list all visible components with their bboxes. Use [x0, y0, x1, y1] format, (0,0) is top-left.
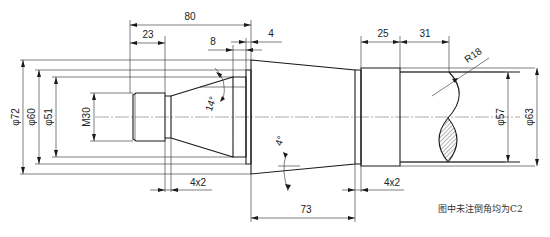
dim-phi60: φ60	[26, 108, 37, 126]
dim-73: 73	[300, 204, 312, 215]
dim-phi72: φ72	[10, 108, 21, 126]
dim-31: 31	[419, 28, 431, 39]
hatched-section	[439, 118, 457, 162]
groove-right-label: 4x2	[384, 177, 401, 188]
dim-4: 4	[268, 28, 274, 39]
shaft-drawing: 80 23 8 4 25 31 73 4x2 4x2 φ72 φ60 φ51	[0, 0, 550, 237]
radius-r18: R18	[462, 45, 484, 65]
dim-phi63: φ63	[524, 108, 535, 126]
dim-phi51: φ51	[43, 108, 54, 126]
dim-8: 8	[210, 36, 216, 47]
angle-14: 14°	[203, 95, 219, 113]
angle-4: 4°	[273, 134, 287, 147]
groove-left-label: 4x2	[190, 177, 207, 188]
dim-23: 23	[142, 29, 154, 40]
dim-25: 25	[377, 28, 389, 39]
dim-phi57: φ57	[495, 108, 506, 126]
dim-m30: M30	[81, 107, 92, 127]
chamfer-note: 图中未注倒角均为C2	[438, 203, 523, 214]
dim-80: 80	[184, 11, 196, 22]
